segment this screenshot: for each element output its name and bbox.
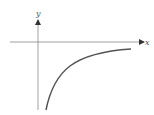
x-axis-label: x: [145, 38, 150, 47]
graph-diagram: y x: [0, 0, 154, 115]
y-axis-label: y: [35, 9, 41, 18]
function-curve: [46, 49, 131, 110]
